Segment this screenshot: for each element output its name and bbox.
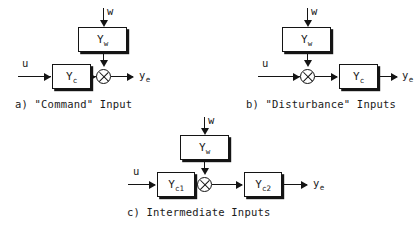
diagram-b-caption: b) "Disturbance" Inputs [246,99,396,110]
figure-canvas: w Yw u Yc [0,0,420,233]
diagram-a-summing-junction [96,69,111,84]
diagram-a-u-arrowhead [44,73,51,81]
diagram-b-block-yc-label: Yc [353,71,364,82]
diagram-a-w-arrowhead [100,20,108,27]
diagram-c-w-arrowhead [201,128,209,135]
diagram-b-input-label-w: w [311,6,317,17]
diagram-b-block-yw-label: Yw [301,34,312,45]
diagram-a: w Yw u Yc [0,0,200,110]
diagram-c-block-yw-label: Yw [199,142,210,153]
diagram-b-summing-junction [300,69,315,84]
diagram-c-sum-to-yc2-arrowhead [236,181,243,189]
diagram-a-output-arrowhead [127,73,134,81]
diagram-b-output-arrowhead [391,73,398,81]
diagram-a-block-yc-label: Yc [66,71,77,82]
diagram-b-w-arrowhead [304,20,312,27]
diagram-c-output-arrowhead [301,181,308,189]
diagram-b-block-yw: Yw [282,27,331,52]
diagram-b-yw-to-sum-arrowhead [304,60,312,67]
diagram-a-caption: a) "Command" Input [15,99,132,110]
diagram-b-input-label-u: u [262,58,268,69]
diagram-b-output-label-ye: ye [402,70,413,81]
diagram-a-output-label-ye: ye [139,70,150,81]
diagram-a-block-yc: Yc [52,64,91,89]
diagram-c: w Yw u Yc1 [100,113,360,233]
diagram-c-block-yc1: Yc1 [157,172,195,197]
diagram-a-block-yw-label: Yw [97,34,108,45]
diagram-b-sum-to-yc-arrowhead [331,73,338,81]
diagram-c-yw-to-sum-arrowhead [201,168,209,175]
diagram-b-block-yc: Yc [339,64,378,89]
diagram-c-block-yw: Yw [180,135,229,160]
diagram-c-block-yc2-label: Yc2 [255,179,271,190]
diagram-c-u-arrowhead [149,181,156,189]
diagram-c-caption: c) Intermediate Inputs [127,207,270,218]
diagram-a-block-yw: Yw [78,27,127,52]
diagram-c-input-label-u: u [133,166,139,177]
diagram-a-yw-to-sum-arrowhead [100,60,108,67]
diagram-b-u-arrowhead [293,73,300,81]
diagram-c-output-label-ye: ye [313,178,324,189]
diagram-b: w Yw u Yc [210,0,420,110]
diagram-c-input-label-w: w [208,115,214,126]
diagram-c-block-yc1-label: Yc1 [168,179,184,190]
diagram-a-input-label-u: u [22,58,28,69]
diagram-c-summing-junction [197,177,212,192]
diagram-c-block-yc2: Yc2 [244,172,282,197]
